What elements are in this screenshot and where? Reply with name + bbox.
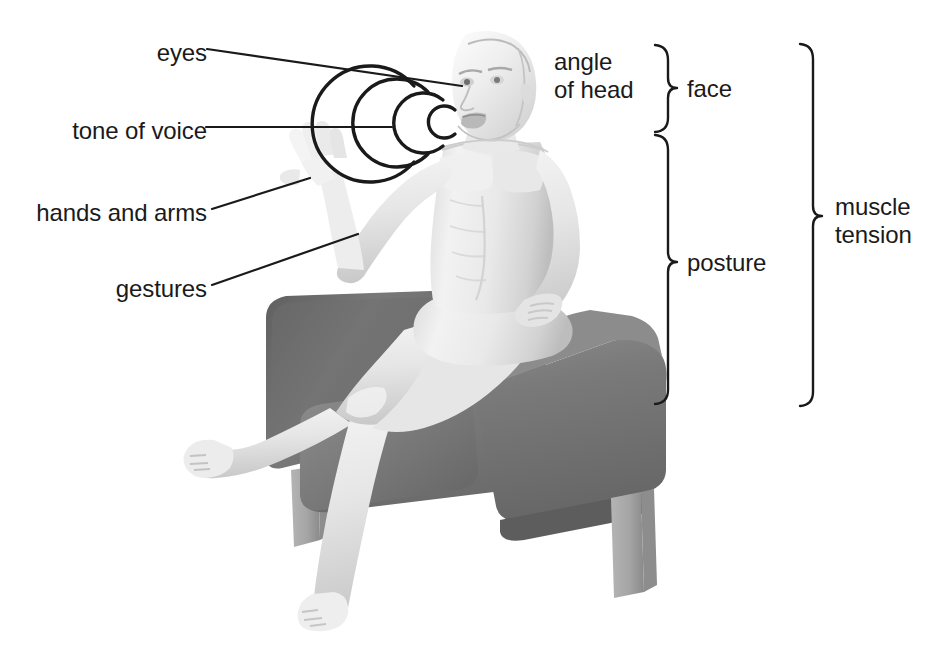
chair-leg-front-left xyxy=(611,489,657,598)
diagram-canvas: eyes tone of voice hands and arms gestur… xyxy=(0,0,939,651)
label-angle-of-head-line1[interactable]: angle xyxy=(554,48,612,76)
label-gestures[interactable]: gestures xyxy=(20,275,207,303)
label-tone-of-voice[interactable]: tone of voice xyxy=(20,117,207,145)
label-posture[interactable]: posture xyxy=(687,249,766,277)
label-face[interactable]: face xyxy=(687,75,732,103)
label-angle-of-head-line2[interactable]: of head xyxy=(554,76,633,104)
figure-illustration xyxy=(0,0,939,651)
label-muscle-tension-line1[interactable]: muscle xyxy=(835,193,910,221)
label-eyes[interactable]: eyes xyxy=(20,39,207,67)
label-hands-and-arms[interactable]: hands and arms xyxy=(20,199,207,227)
label-muscle-tension-line2[interactable]: tension xyxy=(835,221,912,249)
